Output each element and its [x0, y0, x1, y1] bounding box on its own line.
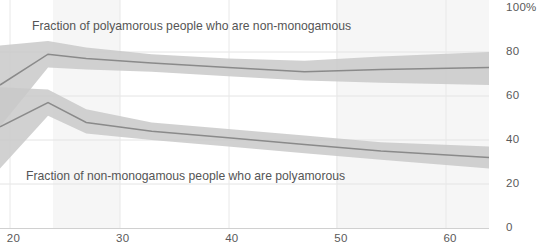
y-axis-tick-label: 80	[506, 46, 519, 58]
x-axis-tick-label: 20	[7, 233, 20, 245]
y-axis-tick-label: 0	[506, 222, 513, 234]
x-axis-tick-label: 60	[443, 233, 456, 245]
y-axis-tick-label: 40	[506, 134, 519, 146]
chart-container: Fraction of polyamorous people who are n…	[0, 0, 540, 249]
x-shaded-band	[336, 0, 489, 228]
chart-plot-area	[0, 0, 540, 249]
y-axis-tick-label: 60	[506, 90, 519, 102]
y-axis-tick-label: 100%	[506, 2, 537, 14]
x-axis-tick-label: 50	[334, 233, 347, 245]
series-annotation-nonmonogamous-polyamorous: Fraction of non-monogamous people who ar…	[26, 170, 345, 182]
x-shaded-bands	[53, 0, 489, 228]
y-axis-tick-label: 20	[506, 178, 519, 190]
x-axis-tick-label: 40	[225, 233, 238, 245]
series-annotation-polyamorous-nonmonogamous: Fraction of polyamorous people who are n…	[32, 20, 351, 32]
x-axis-tick-label: 30	[116, 233, 129, 245]
